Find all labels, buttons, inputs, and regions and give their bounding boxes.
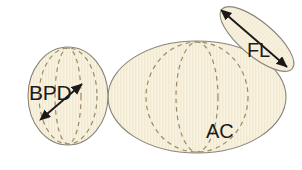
head-group: BPD	[28, 47, 108, 145]
femur-label: FL	[247, 39, 270, 61]
diagram-canvas: AC BPD FL	[0, 0, 302, 170]
abdomen-label: AC	[206, 120, 233, 142]
fetal-biometry-diagram: AC BPD FL	[0, 0, 302, 170]
head-label: BPD	[29, 81, 72, 104]
